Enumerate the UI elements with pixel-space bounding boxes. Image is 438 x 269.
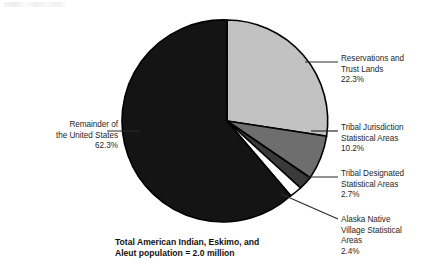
pie-chart-figure: Remainder of the United States 62.3% Res… [0,0,438,269]
label-alaska-native-village-statistical-areas: Alaska Native Village Statistical Areas … [341,205,436,267]
label-reservations-and-trust-lands: Reservations and Trust Lands 22.3% [341,44,436,96]
label-reservations-percent: 22.3% [341,75,436,85]
label-remainder-of-the-united-states: Remainder of the United States 62.3% [8,110,118,162]
label-tribal-jurisdiction-percent: 10.2% [341,144,436,154]
label-tribal-jurisdiction-statistical-areas: Tribal Jurisdiction Statistical Areas 10… [341,113,436,165]
label-reservations-name: Reservations and Trust Lands [341,54,404,73]
label-alaska-native-name: Alaska Native Village Statistical Areas [341,215,402,245]
label-alaska-native-percent: 2.4% [341,247,436,257]
label-tribal-designated-percent: 2.7% [341,190,436,200]
leader-line-alaska-native [281,194,338,219]
slice-reservations-and-trust-lands [227,20,328,136]
label-remainder-percent: 62.3% [8,141,118,151]
label-remainder-name: Remainder of the United States [56,120,118,139]
chart-caption: Total American Indian, Eskimo, and Aleut… [115,237,345,260]
label-tribal-designated-name: Tribal Designated Statistical Areas [341,169,404,188]
label-tribal-designated-statistical-areas: Tribal Designated Statistical Areas 2.7% [341,159,436,211]
label-tribal-jurisdiction-name: Tribal Jurisdiction Statistical Areas [341,123,403,142]
